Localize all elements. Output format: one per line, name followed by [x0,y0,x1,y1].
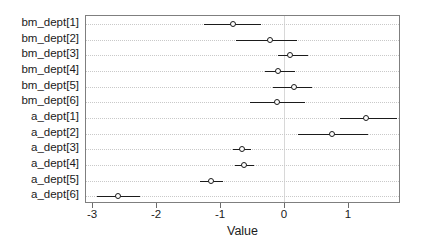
y-axis-tick-label: a_dept[3] [31,142,79,154]
estimate-point [363,115,369,121]
estimate-point [115,193,121,199]
grid-line-horizontal [86,71,399,72]
y-axis-tick-label: bm_dept[1] [21,17,79,29]
x-axis-tick-label: -3 [87,209,97,221]
estimate-point [291,84,297,90]
forest-plot-figure: bm_dept[1]bm_dept[2]bm_dept[3]bm_dept[4]… [0,0,424,244]
grid-line-horizontal [86,55,399,56]
estimate-point [239,146,245,152]
estimate-point [275,68,281,74]
y-axis-tick-label: bm_dept[6] [21,95,79,107]
x-axis-tick-label: -1 [215,209,225,221]
estimate-point [287,52,293,58]
estimate-point [267,37,273,43]
y-axis-tick-label: a_dept[4] [31,158,79,170]
estimate-point [230,21,236,27]
interval-line [278,55,309,56]
x-axis-tick-label: -2 [151,209,161,221]
y-axis-tick-label: a_dept[5] [31,174,79,186]
y-axis-tick-label: bm_dept[4] [21,64,79,76]
x-axis-tick-label: 0 [281,209,287,221]
zero-reference-line [284,16,285,202]
grid-line-horizontal [86,87,399,88]
estimate-point [241,162,247,168]
estimate-point [208,178,214,184]
estimate-point [329,131,335,137]
y-axis-tick-label: a_dept[6] [31,189,79,201]
x-axis-title: Value [85,225,400,238]
grid-line-horizontal [86,102,399,103]
y-axis-tick-label: a_dept[1] [31,111,79,123]
y-axis-tick-label: bm_dept[5] [21,80,79,92]
estimate-point [274,99,280,105]
y-axis-labels: bm_dept[1]bm_dept[2]bm_dept[3]bm_dept[4]… [0,15,79,203]
plot-panel [85,15,400,203]
x-axis-tick-label: 1 [345,209,351,221]
y-axis-tick-label: bm_dept[3] [21,48,79,60]
plot-area [86,16,399,202]
y-axis-tick-label: bm_dept[2] [21,33,79,45]
y-axis-tick-label: a_dept[2] [31,127,79,139]
grid-line-horizontal [86,181,399,182]
